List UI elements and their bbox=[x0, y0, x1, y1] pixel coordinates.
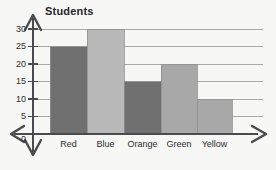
chart-container: Students bbox=[0, 0, 276, 170]
ytick-label-5: 5 bbox=[4, 111, 26, 121]
xtick-label-orange: Orange bbox=[124, 139, 161, 149]
bar-red bbox=[50, 47, 87, 135]
bar-orange bbox=[124, 82, 161, 135]
ytick-label-10: 10 bbox=[4, 94, 26, 104]
xtick-label-green: Green bbox=[161, 139, 197, 149]
xtick-label-blue: Blue bbox=[87, 139, 124, 149]
xtick-label-yellow: Yellow bbox=[197, 139, 232, 149]
bar-green bbox=[161, 64, 197, 134]
ytick-label-15: 15 bbox=[4, 76, 26, 86]
ytick-label-0: 0 bbox=[12, 134, 26, 144]
xtick-label-red: Red bbox=[50, 139, 87, 149]
bar-blue bbox=[87, 29, 124, 134]
ytick-label-25: 25 bbox=[4, 41, 26, 51]
bar-yellow bbox=[197, 99, 232, 134]
ytick-label-20: 20 bbox=[4, 59, 26, 69]
ytick-label-30: 30 bbox=[4, 24, 26, 34]
